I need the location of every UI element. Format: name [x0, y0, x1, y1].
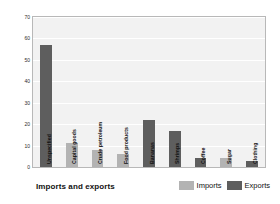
- y-tick-label: 30: [14, 100, 30, 105]
- x-tick-label: Sugar: [226, 149, 232, 164]
- legend-label-exports: Exports: [245, 181, 270, 190]
- x-tick-label: Food products: [123, 127, 129, 164]
- x-tick-label: Coffee: [201, 148, 207, 164]
- x-axis-title: Imports and exports: [36, 182, 115, 191]
- bar-group: Food products: [110, 17, 136, 167]
- y-tick-label: 0: [14, 165, 30, 170]
- legend-swatch-exports: [227, 181, 242, 190]
- x-tick-label: Shrimps: [175, 143, 181, 164]
- bar-chart-figure: Percentage of total 706050403020100 Unsp…: [0, 0, 280, 204]
- y-tick-label: 10: [14, 143, 30, 148]
- x-tick-label: Bananas: [149, 142, 155, 164]
- x-tick-label: Crude petroleum: [97, 122, 103, 164]
- bar-group: Unspecified: [33, 17, 59, 167]
- bar-group: Clothing: [239, 17, 265, 167]
- y-axis-tick-labels: 706050403020100: [14, 16, 30, 168]
- bar-group: Coffee: [188, 17, 214, 167]
- bar-group: Shrimps: [162, 17, 188, 167]
- legend: Imports Exports: [179, 181, 270, 190]
- x-tick-label: Unspecified: [46, 134, 52, 164]
- bar-group: Crude petroleum: [85, 17, 111, 167]
- bar-series-container: UnspecifiedCapital goodsCrude petroleumF…: [33, 17, 265, 167]
- bar-group: Capital goods: [59, 17, 85, 167]
- bar-group: Sugar: [213, 17, 239, 167]
- x-tick-label: Capital goods: [72, 129, 78, 164]
- y-tick-label: 70: [14, 15, 30, 20]
- legend-item-imports: Imports: [179, 181, 222, 190]
- y-tick-label: 40: [14, 79, 30, 84]
- y-tick-label: 50: [14, 57, 30, 62]
- legend-swatch-imports: [179, 181, 194, 190]
- x-tick-label: Clothing: [252, 143, 258, 164]
- legend-label-imports: Imports: [197, 181, 222, 190]
- y-tick-label: 20: [14, 122, 30, 127]
- y-tick-label: 60: [14, 36, 30, 41]
- legend-item-exports: Exports: [227, 181, 270, 190]
- bar-group: Bananas: [136, 17, 162, 167]
